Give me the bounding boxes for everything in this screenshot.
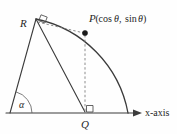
label-point-p-group: P ( cos θ , sin θ ): [88, 12, 146, 25]
geometry-canvas: R P ( cos θ , sin θ ) Q α x-axis: [0, 0, 177, 134]
geometry-figure: R P ( cos θ , sin θ ) Q α x-axis: [0, 0, 177, 134]
right-angle-mark-at-q: [87, 106, 94, 113]
label-point-p-sin: sin: [125, 13, 137, 24]
segment-r-to-p-dashed: [38, 22, 85, 33]
label-point-p-comma: ,: [119, 13, 122, 24]
label-point-p-cos: cos: [99, 13, 112, 24]
point-p-dot: [82, 30, 87, 35]
label-point-q: Q: [81, 118, 89, 130]
unit-circle-arc: [36, 19, 128, 113]
label-x-axis: x-axis: [145, 107, 170, 118]
segment-r-to-q: [36, 19, 85, 112]
label-point-p-close-paren: ): [143, 13, 146, 25]
label-angle-alpha: α: [19, 99, 25, 110]
label-point-r: R: [19, 17, 27, 29]
x-axis-arrowhead: [133, 109, 142, 116]
